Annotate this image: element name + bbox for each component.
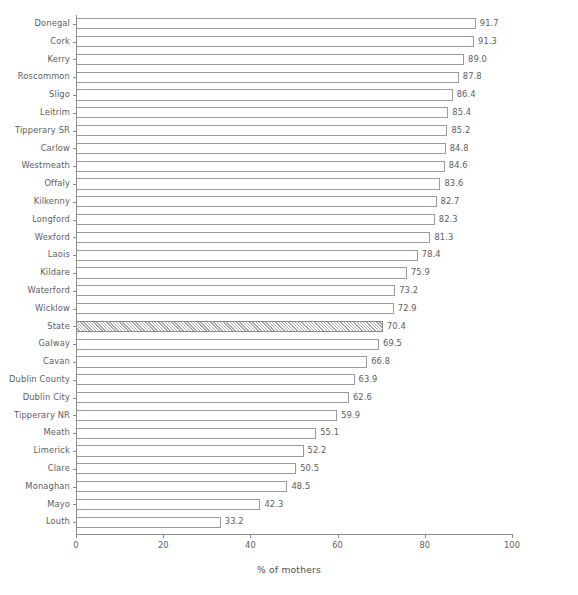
x-tick bbox=[338, 534, 339, 538]
bar bbox=[76, 125, 447, 136]
bar bbox=[76, 143, 446, 154]
bar bbox=[76, 445, 304, 456]
bar-value-label: 91.3 bbox=[478, 33, 497, 51]
bar-row: Longford82.3 bbox=[0, 211, 578, 229]
bar bbox=[76, 285, 395, 296]
bar-value-label: 86.4 bbox=[457, 86, 476, 104]
bar-value-label: 55.1 bbox=[320, 424, 339, 442]
bar bbox=[76, 481, 287, 492]
category-label: Leitrim bbox=[0, 104, 70, 122]
bar bbox=[76, 161, 445, 172]
bar bbox=[76, 232, 430, 243]
bar bbox=[76, 72, 459, 83]
bar-value-label: 91.7 bbox=[480, 15, 499, 33]
category-label: Dublin City bbox=[0, 389, 70, 407]
category-label: Roscommon bbox=[0, 68, 70, 86]
bar-value-label: 50.5 bbox=[300, 460, 319, 478]
category-label: State bbox=[0, 318, 70, 336]
category-label: Limerick bbox=[0, 442, 70, 460]
x-axis-title: % of mothers bbox=[0, 564, 578, 575]
bar-value-label: 70.4 bbox=[387, 318, 406, 336]
bar bbox=[76, 107, 448, 118]
category-label: Galway bbox=[0, 335, 70, 353]
category-label: Meath bbox=[0, 424, 70, 442]
category-label: Kilkenny bbox=[0, 193, 70, 211]
category-label: Sligo bbox=[0, 86, 70, 104]
bar-chart: Donegal91.7Cork91.3Kerry89.0Roscommon87.… bbox=[0, 0, 578, 595]
category-label: Westmeath bbox=[0, 157, 70, 175]
x-axis-line bbox=[76, 534, 512, 535]
bar-row: Dublin City62.6 bbox=[0, 389, 578, 407]
bar-row: Laois78.4 bbox=[0, 246, 578, 264]
category-label: Louth bbox=[0, 513, 70, 531]
category-label: Kerry bbox=[0, 51, 70, 69]
bar-value-label: 85.2 bbox=[451, 122, 470, 140]
category-label: Longford bbox=[0, 211, 70, 229]
x-tick-label: 40 bbox=[230, 540, 270, 550]
bar-row: Clare50.5 bbox=[0, 460, 578, 478]
x-tick-label: 80 bbox=[405, 540, 445, 550]
bar-row: Galway69.5 bbox=[0, 335, 578, 353]
x-tick bbox=[425, 534, 426, 538]
x-tick bbox=[512, 534, 513, 538]
category-label: Cork bbox=[0, 33, 70, 51]
category-label: Offaly bbox=[0, 175, 70, 193]
bar-value-label: 89.0 bbox=[468, 51, 487, 69]
bar-value-label: 81.3 bbox=[434, 229, 453, 247]
bar-value-label: 75.9 bbox=[411, 264, 430, 282]
bar-row: Kerry89.0 bbox=[0, 51, 578, 69]
x-tick bbox=[163, 534, 164, 538]
bar-value-label: 87.8 bbox=[463, 68, 482, 86]
bar-value-label: 82.3 bbox=[439, 211, 458, 229]
bar bbox=[76, 410, 337, 421]
bar bbox=[76, 18, 476, 29]
bar-value-label: 59.9 bbox=[341, 407, 360, 425]
bar bbox=[76, 392, 349, 403]
x-tick bbox=[250, 534, 251, 538]
bar-value-label: 82.7 bbox=[441, 193, 460, 211]
bar-row: Waterford73.2 bbox=[0, 282, 578, 300]
bar-row: Kildare75.9 bbox=[0, 264, 578, 282]
bar-value-label: 66.8 bbox=[371, 353, 390, 371]
bar-value-label: 72.9 bbox=[398, 300, 417, 318]
category-label: Wexford bbox=[0, 229, 70, 247]
bar bbox=[76, 356, 367, 367]
bar-row: Monaghan48.5 bbox=[0, 478, 578, 496]
bar-row: Wexford81.3 bbox=[0, 229, 578, 247]
bar-value-label: 69.5 bbox=[383, 335, 402, 353]
category-label: Clare bbox=[0, 460, 70, 478]
bar bbox=[76, 303, 394, 314]
bar-row: Offaly83.6 bbox=[0, 175, 578, 193]
bar bbox=[76, 339, 379, 350]
bar-value-label: 83.6 bbox=[444, 175, 463, 193]
bar-row: Meath55.1 bbox=[0, 424, 578, 442]
bar-value-label: 85.4 bbox=[452, 104, 471, 122]
bar-row: Tipperary NR59.9 bbox=[0, 407, 578, 425]
bar-value-label: 84.8 bbox=[450, 140, 469, 158]
bar bbox=[76, 178, 440, 189]
bar-row: Tipperary SR85.2 bbox=[0, 122, 578, 140]
category-label: Monaghan bbox=[0, 478, 70, 496]
bar bbox=[76, 428, 316, 439]
category-label: Cavan bbox=[0, 353, 70, 371]
bar-row: Louth33.2 bbox=[0, 513, 578, 531]
bar-value-label: 84.6 bbox=[449, 157, 468, 175]
y-axis-line bbox=[76, 15, 77, 534]
bar-row: Sligo86.4 bbox=[0, 86, 578, 104]
bar-value-label: 33.2 bbox=[225, 513, 244, 531]
bar-value-label: 48.5 bbox=[291, 478, 310, 496]
bar bbox=[76, 89, 453, 100]
bar-value-label: 63.9 bbox=[359, 371, 378, 389]
bar-row: Wicklow72.9 bbox=[0, 300, 578, 318]
category-label: Carlow bbox=[0, 140, 70, 158]
bar-row: Leitrim85.4 bbox=[0, 104, 578, 122]
x-tick-label: 60 bbox=[318, 540, 358, 550]
category-label: Waterford bbox=[0, 282, 70, 300]
bar-value-label: 42.3 bbox=[264, 496, 283, 514]
bar bbox=[76, 267, 407, 278]
category-label: Tipperary SR bbox=[0, 122, 70, 140]
category-label: Mayo bbox=[0, 496, 70, 514]
bar bbox=[76, 196, 437, 207]
bar bbox=[76, 214, 435, 225]
bar bbox=[76, 374, 355, 385]
